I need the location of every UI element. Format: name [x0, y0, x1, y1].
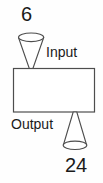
input-funnel-mouth-ellipse: [19, 33, 44, 42]
output-funnel-mouth-ellipse: [63, 141, 87, 149]
input-funnel-cone: [19, 38, 44, 69]
output-text-label: Output: [11, 117, 53, 131]
output-funnel-cone: [63, 112, 86, 145]
input-value-label: 6: [21, 4, 32, 24]
input-funnel-icon: [19, 33, 44, 69]
output-value-label: 24: [65, 155, 87, 175]
diagram-canvas: [0, 0, 103, 183]
input-text-label: Input: [46, 45, 77, 59]
function-machine-diagram: 6 Input Output 24: [0, 0, 103, 183]
machine-box: [14, 69, 95, 113]
output-funnel-icon: [63, 112, 87, 150]
